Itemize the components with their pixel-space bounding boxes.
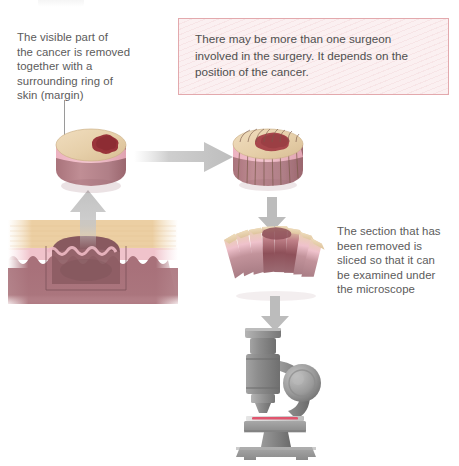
illustration-canvas: The visible part of the cancer is remove… [0,0,459,466]
top-edge-artifact [38,0,84,7]
microscope-caption: The section that has been removed is sli… [337,224,459,297]
specimen-sliced-sections [222,222,330,302]
excised-specimen-cylinder [50,118,136,200]
surgeon-note-text: There may be more than one surgeon invol… [195,31,439,81]
surgeon-note-box: There may be more than one surgeon invol… [178,18,449,95]
specimen-marked-for-slicing [228,118,310,200]
microscope [218,325,340,461]
excision-caption: The visible part of the cancer is remove… [17,30,169,103]
arrow-specimen-to-scored [134,140,234,174]
